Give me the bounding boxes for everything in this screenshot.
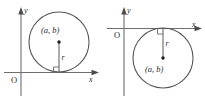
center-coordinates-label-right: (a, b) xyxy=(145,64,164,74)
center-point-dot-right xyxy=(161,56,164,59)
radius-label-left: r xyxy=(62,53,66,62)
x-axis-arrowhead-icon xyxy=(92,70,100,75)
y-axis-left xyxy=(18,7,23,96)
x-axis-label-right: x xyxy=(191,20,196,29)
x-axis-arrowhead-icon xyxy=(195,26,203,31)
y-axis-right xyxy=(121,7,126,96)
y-axis-arrowhead-icon xyxy=(18,7,23,15)
diagram-panel-left: y x O (a, b) r xyxy=(0,0,102,101)
y-axis-label-left: y xyxy=(23,6,28,15)
figure-root: y x O (a, b) r xyxy=(0,0,205,101)
radius-label-right: r xyxy=(166,39,170,48)
right-angle-marker-right xyxy=(158,29,164,35)
origin-label-right: O xyxy=(114,30,120,40)
x-axis-label-left: x xyxy=(88,75,93,84)
center-coordinates-label-left: (a, b) xyxy=(41,25,60,35)
x-axis-right xyxy=(107,26,202,31)
y-axis-label-right: y xyxy=(126,6,131,15)
diagram-panel-right: y x O (a, b) r xyxy=(103,0,205,101)
y-axis-arrowhead-icon xyxy=(121,7,126,15)
origin-label-left: O xyxy=(11,75,17,85)
center-point-dot-left xyxy=(57,40,60,43)
